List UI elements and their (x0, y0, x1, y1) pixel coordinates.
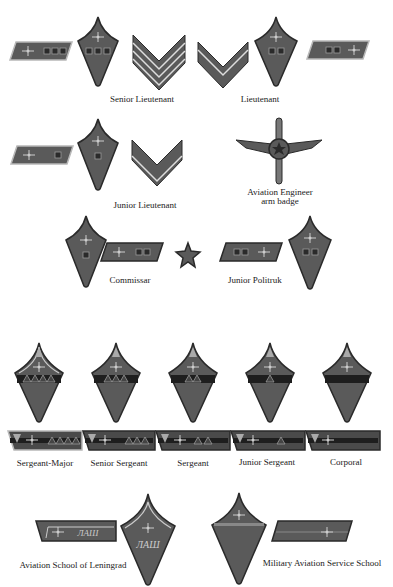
collar-tab-sergeant-major (8, 431, 82, 450)
caption-senior-sergeant: Senior Sergeant (84, 458, 154, 468)
caption-commissar: Commissar (100, 275, 160, 285)
gorget-patch-junior-sergeant (246, 343, 294, 421)
caption-military-aviation-service-school: Military Aviation Service School (262, 558, 382, 568)
collar-tab-senior-sergeant (83, 431, 155, 450)
collar-tab-sergeant (156, 431, 230, 450)
collar-tab-commissar (101, 243, 163, 261)
caption-sergeant: Sergeant (158, 458, 228, 468)
caption-junior-politruk: Junior Politruk (220, 275, 290, 285)
caption-lieutenant: Lieutenant (220, 94, 300, 104)
caption-aviation-school-leningrad: Aviation School of Leningrad (18, 560, 128, 570)
gorget-patch-sergeant (169, 343, 217, 421)
gorget-patch-junior-politruk (289, 216, 331, 288)
chevron-lieutenant (198, 42, 248, 88)
gorget-patch-junior-lieutenant (78, 119, 118, 189)
gorget-patch-corporal (323, 343, 371, 421)
caption-junior-lieutenant: Junior Lieutenant (95, 200, 195, 210)
gorget-patch-military-aviation-service-school (212, 493, 266, 583)
collar-tab-senior-lieutenant (10, 42, 72, 60)
svg-text:ЛАШ: ЛАШ (77, 528, 100, 538)
collar-tab-military-aviation-service-school (272, 521, 352, 541)
collar-tab-lieutenant (307, 41, 369, 59)
gorget-patch-senior-sergeant (92, 343, 140, 421)
collar-tab-junior-lieutenant (11, 146, 73, 164)
chevron-junior-lieutenant (132, 140, 182, 186)
caption-senior-lieutenant: Senior Lieutenant (92, 94, 192, 104)
red-star-icon (176, 243, 200, 267)
gorget-patch-sergeant-major (15, 343, 63, 421)
aviation-engineer-badge (236, 118, 322, 184)
gorget-patch-lieutenant (255, 17, 297, 85)
collar-tab-junior-politruk (220, 243, 282, 261)
collar-tab-junior-sergeant (231, 431, 305, 450)
caption-sergeant-major: Sergeant-Major (10, 458, 80, 468)
caption-junior-sergeant: Junior Sergeant (232, 457, 302, 467)
svg-text:ЛАШ: ЛАШ (135, 539, 160, 550)
gorget-patch-senior-lieutenant (78, 17, 118, 85)
caption-corporal: Corporal (311, 457, 381, 467)
collar-tab-corporal (306, 431, 380, 450)
caption-arm-badge: arm badge (230, 196, 330, 206)
gorget-patch-aviation-school-leningrad: ЛАШ (121, 494, 175, 584)
collar-tab-aviation-school-leningrad: ЛАШ (36, 521, 116, 541)
chevron-senior-lieutenant (133, 35, 185, 90)
